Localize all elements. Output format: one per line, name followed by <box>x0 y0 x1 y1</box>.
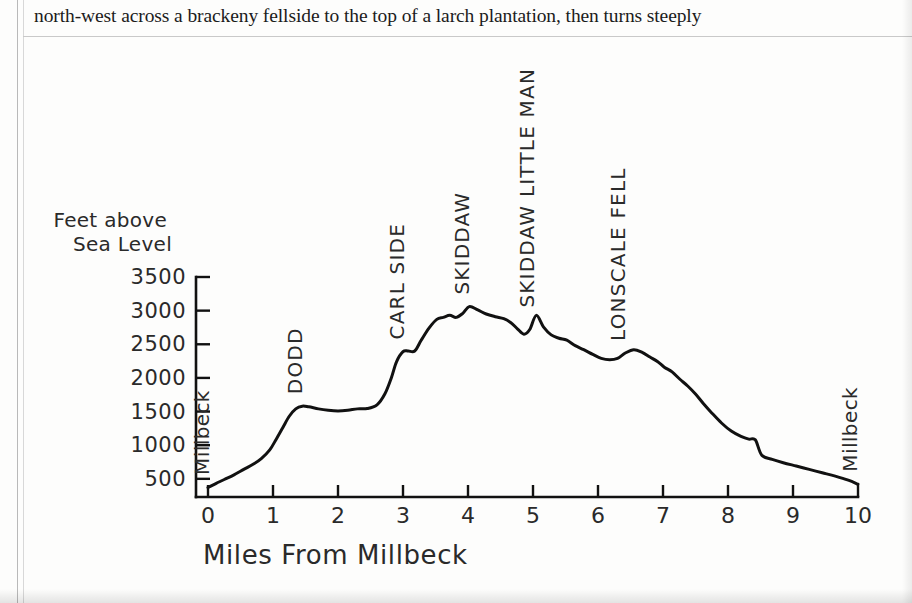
peak-annotation-label: SKIDDAW LITTLE MAN <box>515 68 539 308</box>
x-axis-tick-label: 5 <box>526 503 540 528</box>
x-axis-tick-label: 2 <box>331 503 345 528</box>
y-axis-tick-label: 1000 <box>131 433 186 457</box>
elevation-profile-chart: 500100015002000250030003500 012345678910… <box>0 36 912 603</box>
peak-annotation-label: LONSCALE FELL <box>606 167 630 341</box>
peak-annotation-label: Millbeck <box>838 387 862 472</box>
x-axis-ticks <box>208 485 858 497</box>
peak-annotation-label: CARL SIDE <box>385 223 409 339</box>
elevation-profile-figure: 500100015002000250030003500 012345678910… <box>0 36 912 603</box>
y-axis-tick-label: 3000 <box>131 299 186 323</box>
scanned-page: north-west across a brackeny fellside to… <box>0 0 912 603</box>
x-axis-tick-label: 0 <box>201 503 215 528</box>
y-axis-tick-label: 2000 <box>131 366 186 390</box>
page-edge-shadow-right <box>902 0 912 603</box>
x-axis-tick-label: 6 <box>591 503 605 528</box>
x-axis-title: Miles From Millbeck <box>203 540 468 570</box>
y-axis-tick-label: 500 <box>144 467 186 491</box>
x-axis-tick-label: 9 <box>786 503 800 528</box>
x-axis-tick-label: 3 <box>396 503 410 528</box>
peak-annotation-label: SKIDDAW <box>450 192 474 295</box>
x-axis-tick-label: 7 <box>656 503 670 528</box>
x-axis-tick-label: 4 <box>461 503 475 528</box>
y-axis-tick-labels: 500100015002000250030003500 <box>131 265 186 491</box>
y-axis-tick-label: 2500 <box>131 332 186 356</box>
x-axis-tick-labels: 012345678910 <box>201 503 872 528</box>
peak-annotation-label: DODD <box>283 327 307 394</box>
peak-annotation-label: Millbeck <box>190 390 214 475</box>
y-axis-tick-label: 1500 <box>131 400 186 424</box>
body-text-line: north-west across a brackeny fellside to… <box>34 2 910 30</box>
x-axis-tick-label: 1 <box>266 503 280 528</box>
page-edge-shadow-bottom <box>0 589 912 603</box>
x-axis-tick-label: 10 <box>844 503 872 528</box>
y-axis-title-line-2: Sea Level <box>73 232 172 256</box>
x-axis-tick-label: 8 <box>721 503 735 528</box>
y-axis-tick-label: 3500 <box>131 265 186 289</box>
y-axis-title-line-1: Feet above <box>53 208 167 232</box>
